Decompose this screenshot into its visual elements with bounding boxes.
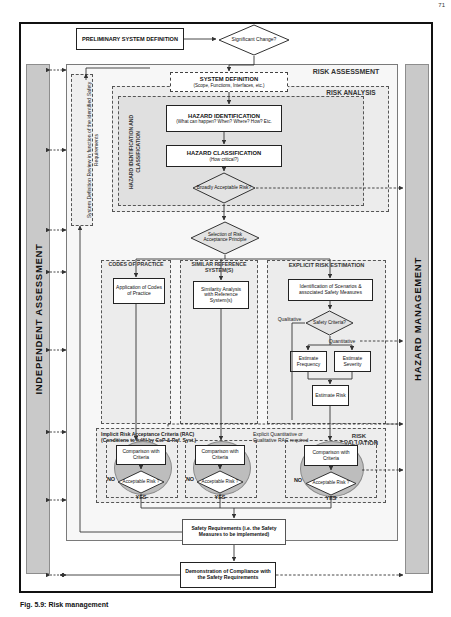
sidebar-hazard-management: HAZARD MANAGEMENT — [405, 64, 429, 574]
hazard-identification-sub: (What can happen? When? Where? How? Etc. — [176, 119, 272, 125]
box-preliminary-system-definition: PRELIMINARY SYSTEM DEFINITION — [76, 28, 184, 50]
label-quantitative: Quantitative — [324, 339, 360, 345]
diamond-safety-criteria: Safety Criteria? — [305, 310, 354, 336]
diamond-acceptable-risk-3-text: Acceptable Risk ? — [305, 471, 357, 496]
box-estimate-risk: Estimate Risk — [312, 385, 349, 406]
label-yes-2: YES — [212, 494, 228, 500]
box-hazard-identification: HAZARD IDENTIFICATION (What can happen? … — [166, 105, 282, 132]
page-number: 71 — [438, 2, 445, 8]
box-system-definition: SYSTEM DEFINITION (Scope, Functions, Int… — [170, 72, 288, 92]
label-no-1: NO — [104, 476, 118, 482]
diamond-acceptable-risk-1-text: Acceptable Risk ? — [117, 470, 165, 494]
region-explicit-risk-estimation-title: EXPLICIT RISK ESTIMATION — [267, 262, 386, 268]
hazard-classification-sub: (How critical?) — [209, 157, 238, 162]
sidebar-independent-assessment: INDEPENDENT ASSESSMENT — [26, 64, 50, 574]
label-no-2: NO — [183, 476, 197, 482]
sidebar-independent-assessment-label: INDEPENDENT ASSESSMENT — [33, 243, 44, 394]
diamond-selection-rap-text: Selection of Risk Acceptance Principle — [190, 221, 260, 255]
diamond-acceptable-risk-1: Acceptable Risk ? — [117, 470, 165, 494]
diamond-broadly-acceptable-risk: Broadly Acceptable Risk? — [192, 172, 256, 204]
sidebar-hazard-management-label: HAZARD MANAGEMENT — [412, 257, 423, 381]
box-identification-scenarios: Identification of Scenarios & associated… — [288, 279, 373, 301]
label-no-3: NO — [291, 477, 305, 483]
system-definition-sub: (Scope, Functions, Interfaces, etc.) — [193, 83, 264, 88]
region-similar-reference-systems-title: SIMILAR REFERENCE SYSTEM(S) — [180, 262, 258, 273]
region-risk-assessment-title: RISK ASSESSMENT — [300, 68, 392, 76]
box-demonstration-of-compliance: Demonstration of Compliance with the Saf… — [180, 562, 276, 588]
box-comparison-criteria-2: Comparison with Criteria — [195, 445, 245, 465]
box-comparison-criteria-1: Comparison with Criteria — [116, 445, 166, 465]
diamond-acceptable-risk-3: Acceptable Risk ? — [305, 471, 357, 496]
box-hazard-classification: HAZARD CLASSIFICATION (How critical?) — [166, 145, 282, 167]
safety-requirements-text: Safety Requirements (i.e. the Safety Mea… — [183, 526, 285, 537]
box-application-of-cop: Application of Codes of Practice — [113, 278, 165, 304]
hazard-id-classification-label: HAZARD IDENTIFICATION AND CLASSIFICATION — [128, 100, 141, 204]
diamond-significant-change: Significant Change? — [218, 24, 290, 56]
diamond-acceptable-risk-2-text: Acceptable Risk ? — [196, 470, 244, 494]
diamond-safety-criteria-text: Safety Criteria? — [305, 310, 354, 336]
figure-caption: Fig. 5.9: Risk management — [20, 601, 108, 608]
diamond-selection-rap: Selection of Risk Acceptance Principle — [190, 221, 260, 255]
box-similarity-analysis: Similarity Analysis with Reference Syste… — [193, 281, 249, 309]
label-qualitative: Qualitative — [273, 317, 306, 323]
box-estimate-frequency: Estimate Frequency — [290, 351, 327, 372]
label-yes-3: YES — [323, 495, 339, 501]
diamond-acceptable-risk-2: Acceptable Risk ? — [196, 470, 244, 494]
diamond-broadly-acceptable-text: Broadly Acceptable Risk? — [192, 172, 256, 204]
box-estimate-severity: Estimate Severity — [334, 351, 371, 372]
diamond-significant-change-text: Significant Change? — [218, 24, 290, 56]
label-yes-1: YES — [133, 494, 149, 500]
figure-page: 71 INDEPENDENT ASSESSMENT HAZARD MANAGEM… — [0, 0, 451, 617]
box-comparison-criteria-3: Comparison with Criteria — [304, 445, 358, 466]
box-safety-requirements: Safety Requirements (i.e. the Safety Mea… — [182, 519, 286, 545]
region-codes-of-practice-title: CODES OF PRACTICE — [101, 262, 171, 268]
system-definition-review-label: System Definition Review in function of … — [86, 76, 99, 224]
